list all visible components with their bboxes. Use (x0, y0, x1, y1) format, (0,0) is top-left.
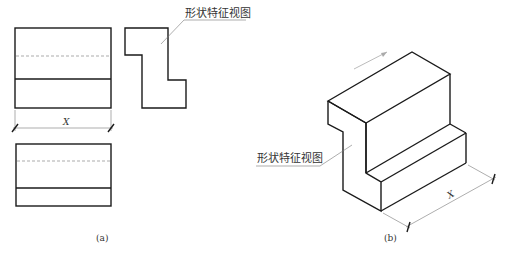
caption-a: (a) (96, 233, 108, 243)
dimension-label-a: X (62, 117, 70, 127)
isometric-block (328, 52, 466, 211)
figure-a: 形状特征视图 X (a) (12, 6, 251, 243)
caption-b: (b) (384, 233, 397, 243)
leader-a (161, 20, 246, 44)
figure-b: 形状特征视图 X (b) (256, 52, 496, 243)
leader-label-b: 形状特征视图 (257, 151, 323, 165)
side-view-shape-feature (125, 28, 186, 108)
top-view (16, 144, 111, 206)
view-direction-arrow (354, 52, 387, 69)
front-view (15, 28, 111, 108)
dimension-label-b: X (444, 188, 456, 201)
dimension-x-b (383, 165, 496, 232)
leader-label-a: 形状特征视图 (185, 6, 251, 20)
drawing-canvas: 形状特征视图 X (a) (0, 0, 505, 257)
